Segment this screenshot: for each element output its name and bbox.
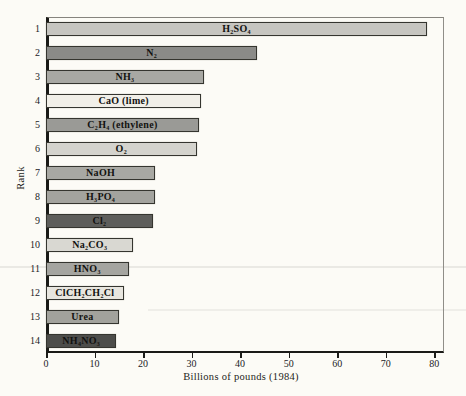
bar-label-h2so4: H₂SO₄ <box>222 24 251 34</box>
bar-clch2ch2cl: ClCH₂CH₂Cl <box>46 286 124 300</box>
rank-tick-label-9: 9 <box>22 216 40 226</box>
bar-nh3: NH₃ <box>46 70 204 84</box>
rank-tick-label-12: 12 <box>22 288 40 298</box>
bar-label-urea: Urea <box>71 312 93 322</box>
bar-label-naoh: NaOH <box>86 168 115 178</box>
rank-tick-label-1: 1 <box>22 24 40 34</box>
y-axis-title: Rank <box>15 148 27 208</box>
rank-tick-label-4: 4 <box>22 96 40 106</box>
bar-naoh: NaOH <box>46 166 155 180</box>
rank-tick-label-13: 13 <box>22 312 40 322</box>
rank-tick-label-3: 3 <box>22 72 40 82</box>
bar-n2: N₂ <box>46 46 257 60</box>
bar-cl2: Cl₂ <box>46 214 153 228</box>
bar-label-c2h4: C₂H₄ (ethylene) <box>87 120 157 130</box>
bar-label-n2: N₂ <box>146 48 157 58</box>
x-tick-label-20: 20 <box>138 359 148 369</box>
rank-tick-label-5: 5 <box>22 120 40 130</box>
bar-label-cao-lime: CaO (lime) <box>98 96 149 106</box>
bar-c2h4: C₂H₄ (ethylene) <box>46 118 199 132</box>
bar-label-o2: O₂ <box>116 144 127 154</box>
bar-label-cl2: Cl₂ <box>92 216 106 226</box>
bar-label-nh4no3: NH₄NO₃ <box>62 336 100 346</box>
bar-o2: O₂ <box>46 142 197 156</box>
figure-canvas: H₂SO₄1N₂2NH₃3CaO (lime)4C₂H₄ (ethylene)5… <box>0 0 466 396</box>
bar-cao-lime: CaO (lime) <box>46 94 201 108</box>
bar-na2co3: Na₂CO₃ <box>46 238 133 252</box>
bar-nh4no3: NH₄NO₃ <box>46 334 116 348</box>
bar-label-clch2ch2cl: ClCH₂CH₂Cl <box>55 288 114 298</box>
bar-label-h3po4: H₃PO₄ <box>86 192 115 202</box>
bar-label-nh3: NH₃ <box>115 72 134 82</box>
rank-tick-label-10: 10 <box>22 240 40 250</box>
bar-hno3: HNO₃ <box>46 262 129 276</box>
rank-tick-label-2: 2 <box>22 48 40 58</box>
x-tick-label-30: 30 <box>187 359 197 369</box>
x-tick-label-60: 60 <box>332 359 342 369</box>
x-tick-label-10: 10 <box>90 359 100 369</box>
bar-h2so4: H₂SO₄ <box>46 22 427 36</box>
rank-tick-label-11: 11 <box>22 264 40 274</box>
x-tick-label-40: 40 <box>235 359 245 369</box>
bar-label-hno3: HNO₃ <box>74 264 101 274</box>
x-tick-label-0: 0 <box>44 359 49 369</box>
rank-tick-label-14: 14 <box>22 336 40 346</box>
plot-area <box>46 17 444 353</box>
x-axis-title: Billions of pounds (1984) <box>46 371 436 382</box>
bar-urea: Urea <box>46 310 119 324</box>
bar-h3po4: H₃PO₄ <box>46 190 155 204</box>
x-tick-label-50: 50 <box>284 359 294 369</box>
bar-label-na2co3: Na₂CO₃ <box>72 240 107 250</box>
x-tick-label-70: 70 <box>381 359 391 369</box>
x-tick-label-80: 80 <box>429 359 439 369</box>
